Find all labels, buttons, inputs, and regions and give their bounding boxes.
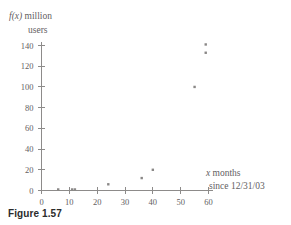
data-point	[71, 188, 73, 190]
data-point	[205, 52, 207, 54]
y-tick-label: 100	[12, 82, 34, 92]
x-tick-label: 50	[170, 197, 192, 207]
x-axis-label-line2: since 12/31/03	[209, 182, 265, 192]
data-point	[152, 169, 154, 171]
data-point	[74, 188, 76, 190]
y-tick-label: 80	[12, 103, 34, 113]
x-tick-label: 60	[198, 197, 220, 207]
data-point	[205, 43, 207, 45]
x-axis-label-line1: x months	[206, 169, 241, 179]
scatter-plot: f(x) million users x months since 12/31/…	[0, 0, 291, 203]
x-tick-label: 20	[86, 197, 108, 207]
y-axis-label-line2: users	[28, 26, 48, 36]
y-tick-label: 20	[12, 165, 34, 175]
data-point	[107, 183, 109, 185]
figure-caption: Figure 1.57	[8, 208, 62, 219]
x-tick-label: 0	[31, 197, 53, 207]
x-tick-label: 30	[114, 197, 136, 207]
x-axis-label-units: months	[210, 168, 240, 178]
y-axis-label-units: million	[22, 11, 52, 21]
y-tick-label: 0	[12, 186, 34, 196]
data-point	[193, 86, 195, 88]
y-axis-label-variable: f(x)	[9, 11, 22, 21]
data-point	[57, 188, 59, 190]
y-axis-label-line1: f(x) million	[9, 12, 52, 22]
y-tick-label: 60	[12, 123, 34, 133]
y-tick-label: 40	[12, 144, 34, 154]
y-tick-label: 140	[12, 41, 34, 51]
y-tick-label: 120	[12, 61, 34, 71]
x-tick-label: 40	[142, 197, 164, 207]
figure-container: f(x) million users x months since 12/31/…	[0, 0, 291, 225]
x-tick-label: 10	[58, 197, 80, 207]
data-point	[141, 177, 143, 179]
